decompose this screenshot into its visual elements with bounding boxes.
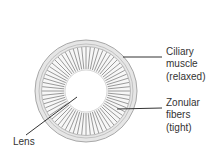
label-line: fibers xyxy=(166,109,200,121)
label-line: (tight) xyxy=(166,122,200,134)
label-line: Ciliary xyxy=(166,46,205,58)
zonular-fibers-label: Zonular fibers (tight) xyxy=(166,97,200,134)
label-line: muscle xyxy=(166,58,205,70)
label-line: Zonular xyxy=(166,97,200,109)
label-line: (relaxed) xyxy=(166,71,205,83)
lens-label: Lens xyxy=(13,136,35,148)
lens xyxy=(65,70,107,112)
ciliary-muscle-label: Ciliary muscle (relaxed) xyxy=(166,46,205,83)
